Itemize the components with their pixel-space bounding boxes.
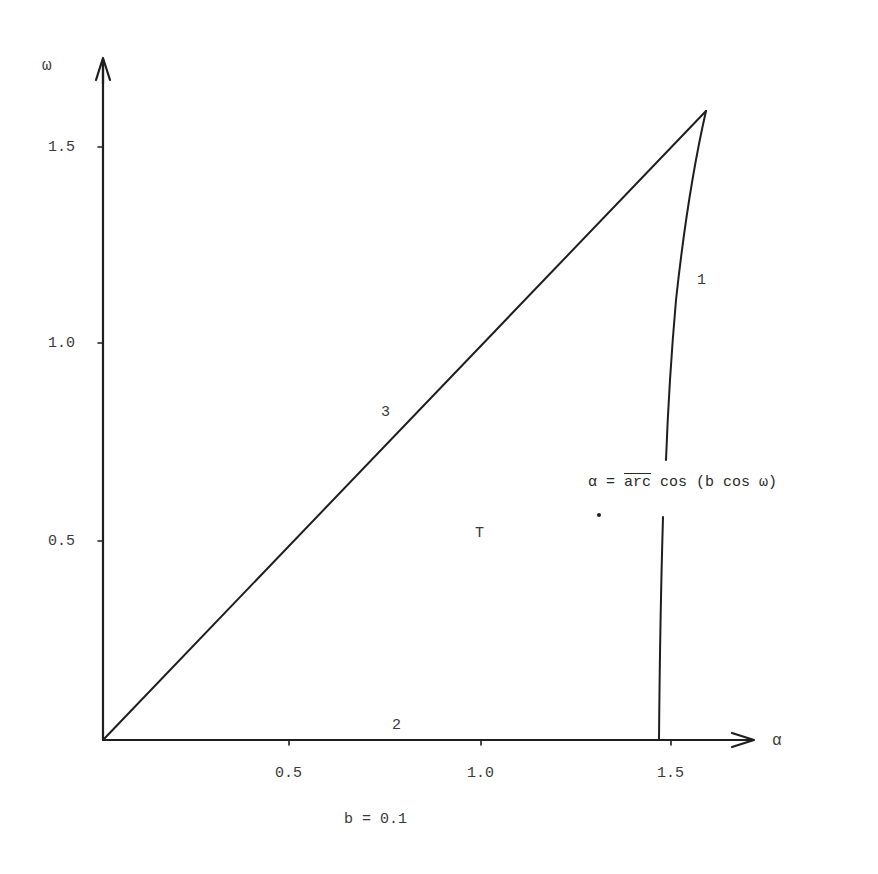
y-tick-label-0.5: 0.5 <box>48 534 75 549</box>
y-axis-label: ω <box>42 58 52 74</box>
parameter-label: b = 0.1 <box>344 812 407 827</box>
y-axis-arrow-icon <box>96 58 110 84</box>
y-tick-label-1.5: 1.5 <box>48 140 75 155</box>
x-axis-label: α <box>772 733 782 749</box>
x-tick-label-0.5: 0.5 <box>275 766 302 781</box>
formula-lhs: α = <box>588 474 624 491</box>
chart-canvas <box>0 0 878 874</box>
formula-rest: cos (b cos ω) <box>651 474 777 491</box>
x-tick-label-1.0: 1.0 <box>467 766 494 781</box>
marker-dot <box>597 513 601 517</box>
curve-3-label: 3 <box>381 405 390 420</box>
curve-3-line <box>103 111 706 740</box>
formula-arc: arc <box>624 474 651 491</box>
x-axis-arrow-icon <box>728 733 754 747</box>
curve-2-label: 2 <box>392 718 401 733</box>
formula-annotation: α = arc cos (b cos ω) <box>588 475 777 490</box>
region-label: T <box>475 526 484 541</box>
x-tick-label-1.5: 1.5 <box>657 766 684 781</box>
curve-1-lower <box>659 517 663 740</box>
curve-1-label: 1 <box>697 273 706 288</box>
y-tick-label-1.0: 1.0 <box>48 336 75 351</box>
